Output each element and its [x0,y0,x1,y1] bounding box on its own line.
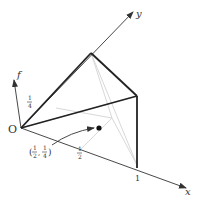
point-label: ( 1 2 , 1 4 ) [29,144,52,159]
f-tick-quarter: 1 4 [27,94,32,109]
svg-text:4: 4 [43,152,47,159]
svg-text:,: , [38,149,40,157]
svg-text:2: 2 [33,152,37,159]
svg-text:2: 2 [78,153,82,160]
axes [14,12,186,188]
svg-text:1: 1 [33,144,37,151]
origin-label: O [8,123,17,136]
svg-text:4: 4 [28,102,32,109]
svg-text:1: 1 [28,94,32,101]
f-axis [14,80,21,128]
svg-text:(: ( [29,147,33,157]
svg-text:): ) [48,147,52,157]
pyramid-diagram: x y f O 1 1 2 1 4 ( 1 2 , 1 4 ) [0,0,206,204]
x-tick-one: 1 [135,174,140,183]
f-axis-label: f [16,69,23,80]
svg-text:1: 1 [78,145,82,152]
x-tick-half: 1 2 [77,145,82,160]
y-axis-label: y [135,8,142,19]
x-axis-label: x [185,186,191,197]
svg-text:1: 1 [43,144,47,151]
point-marker [96,125,101,130]
diagram-canvas: x y f O 1 1 2 1 4 ( 1 2 , 1 4 ) [0,0,206,204]
